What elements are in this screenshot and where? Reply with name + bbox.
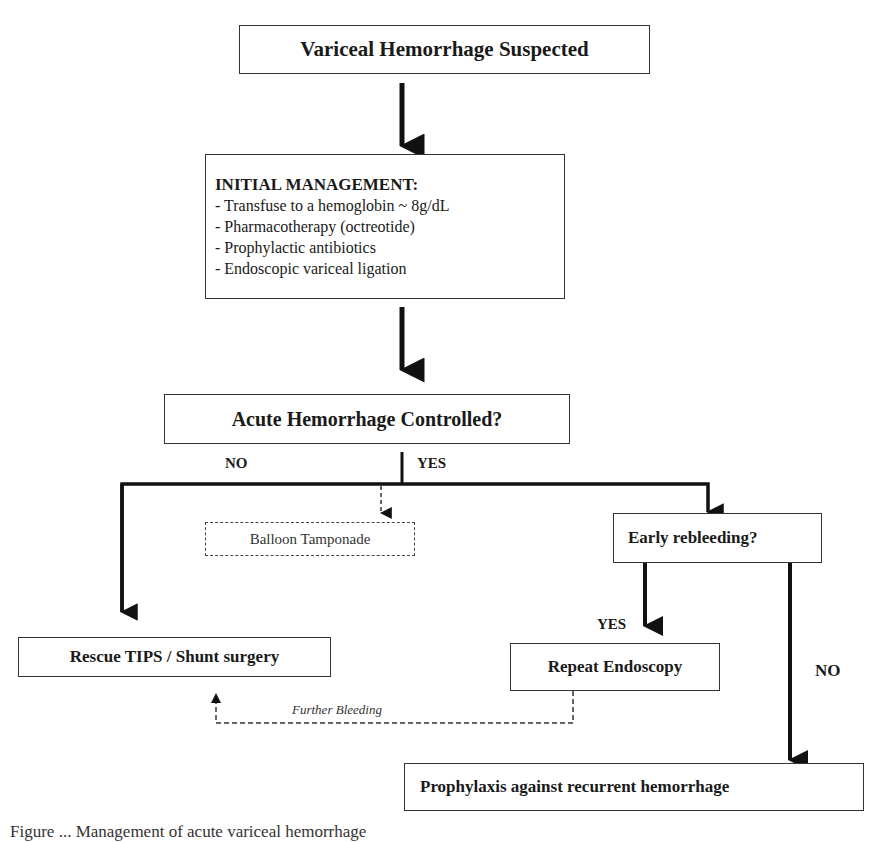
dashed-further-bleeding bbox=[216, 691, 573, 723]
management-item: - Transfuse to a hemoglobin ~ 8g/dL bbox=[215, 195, 449, 216]
rescue-label: Rescue TIPS / Shunt surgery bbox=[70, 647, 279, 667]
start-label: Variceal Hemorrhage Suspected bbox=[300, 37, 589, 62]
rebleed-no-label: NO bbox=[815, 661, 841, 681]
decision-rebleeding-node: Early rebleeding? bbox=[613, 513, 822, 563]
decision-controlled-label: Acute Hemorrhage Controlled? bbox=[232, 408, 503, 431]
decision-controlled-node: Acute Hemorrhage Controlled? bbox=[164, 394, 570, 444]
branch-yes-label: YES bbox=[417, 455, 446, 472]
management-title: INITIAL MANAGEMENT: bbox=[215, 174, 418, 195]
repeat-endoscopy-label: Repeat Endoscopy bbox=[548, 657, 683, 677]
rebleeding-label: Early rebleeding? bbox=[628, 528, 758, 548]
initial-management-node: INITIAL MANAGEMENT: - Transfuse to a hem… bbox=[205, 154, 565, 299]
balloon-label: Balloon Tamponade bbox=[250, 531, 371, 548]
repeat-endoscopy-node: Repeat Endoscopy bbox=[510, 643, 720, 691]
management-item: - Prophylactic antibiotics bbox=[215, 237, 376, 258]
management-item: - Pharmacotherapy (octreotide) bbox=[215, 216, 415, 237]
prophylaxis-node: Prophylaxis against recurrent hemorrhage bbox=[404, 763, 864, 811]
further-bleeding-label: Further Bleeding bbox=[292, 702, 382, 718]
rebleed-yes-label: YES bbox=[597, 616, 626, 633]
rescue-tips-node: Rescue TIPS / Shunt surgery bbox=[18, 637, 331, 677]
management-item: - Endoscopic variceal ligation bbox=[215, 258, 406, 279]
balloon-tamponade-node: Balloon Tamponade bbox=[205, 522, 415, 556]
start-node: Variceal Hemorrhage Suspected bbox=[239, 25, 650, 74]
figure-caption: Figure ... Management of acute variceal … bbox=[10, 822, 366, 842]
prophylaxis-label: Prophylaxis against recurrent hemorrhage bbox=[420, 777, 729, 797]
branch-no-label: NO bbox=[225, 455, 248, 472]
